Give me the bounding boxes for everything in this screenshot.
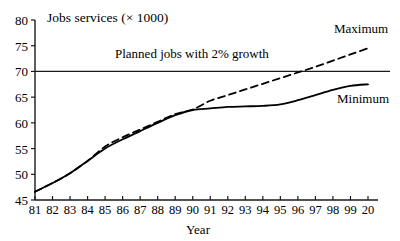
- series-line-maximum: [35, 48, 368, 191]
- series-label-maximum: Maximum: [334, 22, 388, 35]
- y-axis-tick-label: 60: [2, 117, 28, 130]
- series-line-minimum: [35, 84, 368, 191]
- series-label-minimum: Minimum: [337, 92, 389, 105]
- y-axis-tick-label: 80: [2, 14, 28, 27]
- planned-jobs-annotation: Planned jobs with 2% growth: [115, 47, 269, 60]
- y-axis-tick-label: 65: [2, 91, 28, 104]
- chart-figure: Jobs services (× 1000) Planned jobs with…: [0, 0, 400, 241]
- x-axis-tick-label: 20: [357, 204, 379, 217]
- chart-title: Jobs services (× 1000): [47, 11, 168, 25]
- y-axis-tick-label: 50: [2, 168, 28, 181]
- y-axis-tick-label: 55: [2, 143, 28, 156]
- y-axis-tick-label: 70: [2, 65, 28, 78]
- y-axis-tick-label: 75: [2, 40, 28, 53]
- x-axis-title: Year: [186, 223, 210, 236]
